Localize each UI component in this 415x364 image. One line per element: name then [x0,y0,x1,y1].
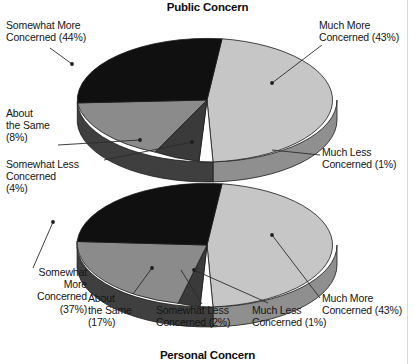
pie-top-slice-somewhat-more [77,38,222,103]
pie-top-public-concern [77,38,337,182]
label-bottom-somewhat-less-concerned: Somewhat Less Concerned (2%) [156,304,256,328]
label-top-about-the-same: About the Same (8%) [6,107,86,144]
label-top-much-more-concerned: Much More Concerned (43%) [319,19,415,43]
scan-artifact-line [407,0,408,364]
label-top-somewhat-more-concerned: Somewhat More Concerned (44%) [6,19,130,43]
label-bottom-somewhat-more-concerned: Somewhat More Concerned (37%) [1,266,87,315]
label-bottom-about-the-same: About the Same (17%) [88,292,150,329]
label-top-much-less-concerned: Much Less Concerned (1%) [322,146,414,170]
label-bottom-much-more-concerned: Much More Concerned (43%) [322,292,414,316]
label-top-somewhat-less-concerned: Somewhat Less Concerned (4%) [6,158,101,195]
